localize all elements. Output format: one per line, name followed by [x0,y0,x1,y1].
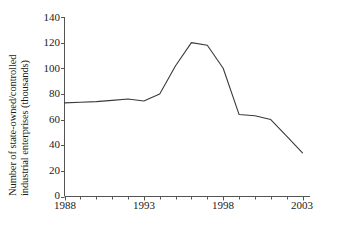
chart-figure: Number of state-owned/controlled industr… [0,0,343,233]
data-series-line [65,43,303,153]
x-axis-ticks [66,197,304,201]
axes [65,17,311,197]
plot-area [0,0,343,233]
y-axis-ticks [61,18,65,198]
